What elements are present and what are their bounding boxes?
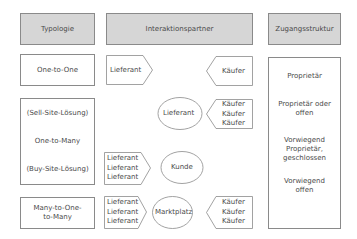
row2-lieferant-label: Lieferant [163,109,194,119]
interaction-shapes [0,0,357,239]
row4-kaeufer-1: Käufer [222,198,245,208]
row4-kaeufer-3: Käufer [222,217,245,227]
row4-lieferant-1: Lieferant [107,198,138,208]
row2-kaeufer-list: Käufer Käufer Käufer [222,100,245,129]
row4-kaeufer-list: Käufer Käufer Käufer [222,198,245,227]
row3-kunde-label: Kunde [171,163,193,173]
row4-kaeufer-2: Käufer [222,208,245,218]
row2-kaeufer-2: Käufer [222,110,245,120]
row1-kaeufer-label: Käufer [222,67,245,77]
row3-lieferant-1: Lieferant [107,154,138,164]
row4-lieferant-2: Lieferant [107,208,138,218]
row4-lieferant-list: Lieferant Lieferant Lieferant [107,198,138,227]
row4-lieferant-3: Lieferant [107,217,138,227]
row3-lieferant-list: Lieferant Lieferant Lieferant [107,154,138,183]
row2-kaeufer-1: Käufer [222,100,245,110]
row2-kaeufer-3: Käufer [222,119,245,129]
row4-marktplatz-label: Marktplatz [155,208,192,218]
row1-lieferant-label: Lieferant [110,66,141,76]
row3-lieferant-3: Lieferant [107,173,138,183]
row3-lieferant-2: Lieferant [107,164,138,174]
